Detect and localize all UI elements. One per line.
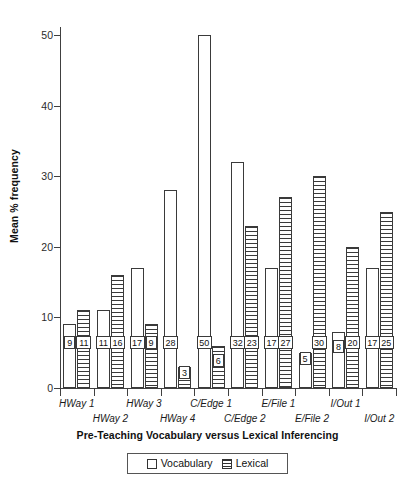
chart-legend: Vocabulary Lexical <box>127 453 288 474</box>
legend-swatch-vocabulary-icon <box>147 459 157 469</box>
legend-swatch-lexical-icon <box>222 459 232 469</box>
bar-value-label: 11 <box>96 336 111 349</box>
bar-lexical-hway-3 <box>145 324 158 388</box>
y-axis-line <box>60 27 61 389</box>
bar-chart: Mean % frequency 01020304050 91111161792… <box>0 0 415 481</box>
x-separator-tick <box>362 388 363 396</box>
y-tick-mark <box>54 247 61 248</box>
x-group-label-i-out-1: I/Out 1 <box>311 398 381 409</box>
bar-value-label: 30 <box>312 336 327 349</box>
bar-value-label: 11 <box>76 336 91 349</box>
bar-value-label: 16 <box>110 336 125 349</box>
bar-value-label: 20 <box>345 336 360 349</box>
bar-vocabulary-c-edge-2 <box>231 162 244 388</box>
x-separator-tick <box>94 388 95 396</box>
x-separator-tick <box>127 388 128 396</box>
bar-value-label: 25 <box>379 336 394 349</box>
x-separator-tick <box>262 388 263 396</box>
bar-lexical-c-edge-1 <box>212 346 225 388</box>
bar-lexical-e-file-2 <box>313 176 326 388</box>
x-group-label-i-out-2: I/Out 2 <box>344 413 414 424</box>
bar-value-label: 17 <box>264 336 279 349</box>
bar-value-label: 32 <box>230 336 245 349</box>
x-separator-tick <box>329 388 330 396</box>
bar-vocabulary-e-file-1 <box>265 268 278 388</box>
x-separator-tick <box>60 388 61 396</box>
y-tick-label: 0 <box>27 383 53 394</box>
x-group-label-e-file-1: E/File 1 <box>243 398 313 409</box>
bar-vocabulary-hway-3 <box>131 268 144 388</box>
bar-vocabulary-hway-2 <box>97 310 110 388</box>
bar-lexical-c-edge-2 <box>245 226 258 388</box>
x-axis-title: Pre-Teaching Vocabulary versus Lexical I… <box>0 429 415 441</box>
x-group-label-hway-2: HWay 2 <box>75 413 145 424</box>
bar-lexical-hway-1 <box>77 310 90 388</box>
bar-value-label: 9 <box>64 336 75 349</box>
bar-vocabulary-hway-1 <box>63 324 76 388</box>
bar-value-label: 8 <box>333 340 344 353</box>
bar-value-label: 50 <box>197 336 212 349</box>
y-tick-label: 20 <box>27 242 53 253</box>
bar-value-label: 5 <box>300 352 311 365</box>
y-tick-mark <box>54 106 61 107</box>
y-tick-mark <box>54 35 61 36</box>
bar-lexical-i-out-2 <box>380 212 393 389</box>
bar-value-label: 23 <box>244 336 259 349</box>
x-separator-tick <box>295 388 296 396</box>
x-group-label-hway-4: HWay 4 <box>143 413 213 424</box>
bar-lexical-e-file-1 <box>279 197 292 388</box>
bar-value-label: 3 <box>179 366 190 379</box>
x-group-label-e-file-2: E/File 2 <box>277 413 347 424</box>
legend-item-vocabulary: Vocabulary <box>147 458 213 469</box>
bar-vocabulary-hway-4 <box>164 190 177 388</box>
x-separator-tick <box>228 388 229 396</box>
bar-value-label: 17 <box>365 336 380 349</box>
bar-lexical-hway-2 <box>111 275 124 388</box>
bar-value-label: 6 <box>213 354 224 367</box>
y-tick-label: 10 <box>27 312 53 323</box>
y-tick-label: 30 <box>27 171 53 182</box>
y-tick-label: 50 <box>27 30 53 41</box>
y-tick-mark <box>54 317 61 318</box>
x-group-label-c-edge-2: C/Edge 2 <box>210 413 280 424</box>
bar-vocabulary-i-out-2 <box>366 268 379 388</box>
y-tick-mark <box>54 176 61 177</box>
x-separator-tick <box>194 388 195 396</box>
legend-item-lexical: Lexical <box>222 458 269 469</box>
x-group-label-c-edge-1: C/Edge 1 <box>176 398 246 409</box>
x-group-label-hway-3: HWay 3 <box>109 398 179 409</box>
bar-value-label: 17 <box>130 336 145 349</box>
x-separator-tick <box>161 388 162 396</box>
x-group-label-hway-1: HWay 1 <box>42 398 112 409</box>
y-tick-label: 40 <box>27 101 53 112</box>
bar-value-label: 9 <box>146 336 157 349</box>
y-axis-title: Mean % frequency <box>8 136 20 256</box>
bar-lexical-i-out-1 <box>346 247 359 388</box>
legend-label-vocabulary: Vocabulary <box>161 458 213 469</box>
bar-value-label: 28 <box>163 336 178 349</box>
legend-label-lexical: Lexical <box>236 458 269 469</box>
bar-value-label: 27 <box>278 336 293 349</box>
x-separator-tick <box>396 388 397 396</box>
